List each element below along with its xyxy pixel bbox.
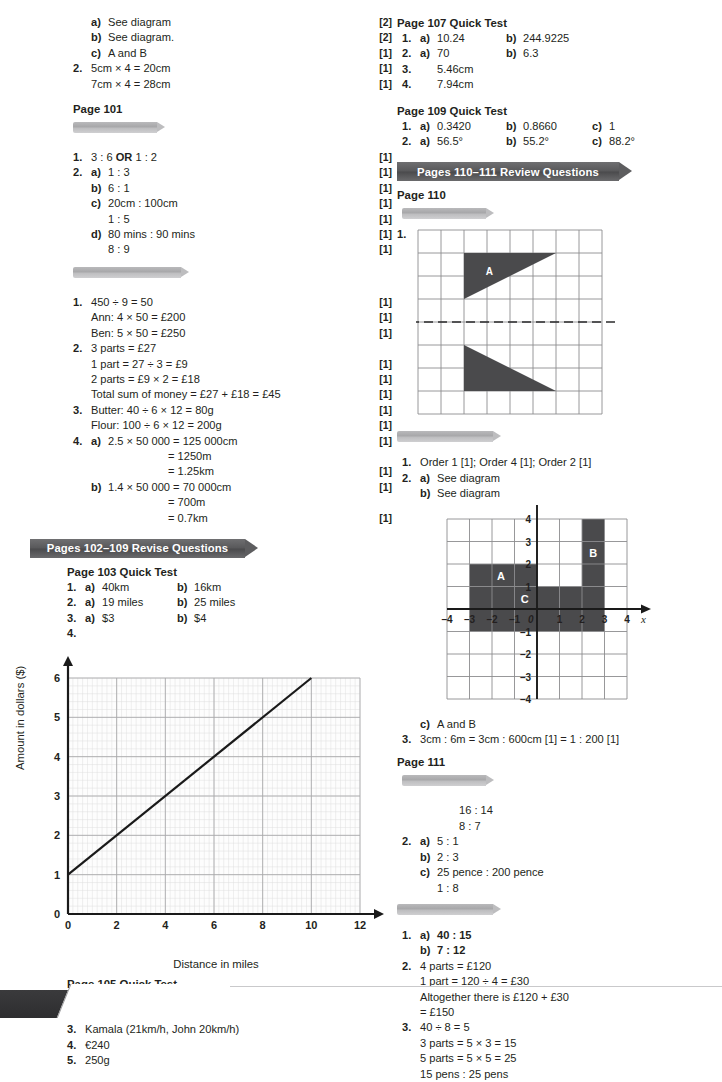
answer-row: 4.€240	[62, 1038, 392, 1053]
answer-text: 16 : 14	[459, 803, 722, 818]
answer-text: = 700m	[168, 495, 392, 510]
answer-text: 7 : 12	[437, 943, 722, 958]
answer-list-page111-a: 16 : 148 : 72.a)5 : 1b)2 : 3c)25 pence :…	[397, 803, 722, 895]
quick-test-row: 4.	[62, 626, 392, 641]
answer-text: 244.9225	[523, 31, 569, 46]
answer-text: 1 part = 120 ÷ 4 = £30	[420, 974, 722, 989]
answer-list-page101-b: 1.450 ÷ 9 = 50[1]Ann: 4 × 50 = £200[1]Be…	[68, 295, 392, 526]
chart-x-axis-label: Distance in miles	[0, 958, 392, 970]
answer-row: b)7 : 12	[397, 943, 722, 958]
answer-row: 2.a)See diagram	[397, 471, 722, 486]
answer-text: = 1250m	[168, 449, 392, 464]
redacted-topic-tag	[397, 431, 493, 442]
redacted-topic-tag	[73, 122, 157, 133]
answer-text: 88.2°	[609, 134, 635, 149]
answer-row: c)A and B[1]	[68, 46, 392, 61]
answer-text: 2.5 × 50 000 = 125 000cm	[108, 434, 392, 449]
answer-row: c)A and B	[397, 717, 722, 732]
answer-row: 1.450 ÷ 9 = 50[1]	[68, 295, 392, 310]
answer-list-page107: 1.a)10.24b)244.92252.a)70b)6.33.5.46cm4.…	[397, 31, 722, 93]
answer-text: 7.94cm	[437, 77, 473, 92]
svg-text:–3: –3	[520, 671, 532, 682]
answer-row: 2.a)1 : 3[1]	[68, 165, 392, 180]
distance-cost-chart: Amount in dollars ($) 0246810120123456 D…	[0, 642, 392, 972]
quick-test-row: 1.a)0.3420b)0.8660c)1	[397, 119, 722, 134]
answer-row: 5.250g	[62, 1053, 392, 1068]
answer-list-page101-a: 1.3 : 6 OR 1 : 2[1]2.a)1 : 3[1]b)6 : 1[1…	[68, 150, 392, 258]
svg-text:3: 3	[602, 614, 608, 625]
diagram-item-number: 1.	[397, 228, 406, 240]
svg-text:1: 1	[54, 868, 60, 880]
answer-text: 8 : 7	[459, 819, 722, 834]
answer-letter: b)	[420, 943, 437, 958]
quick-test-row: 2.a)19 milesb)25 miles	[62, 595, 392, 610]
review-questions-banner: Pages 110–111 Review Questions	[397, 162, 619, 181]
answer-text: 55.2°	[523, 134, 549, 149]
answer-text: 19 miles	[102, 595, 143, 610]
answer-number: 2.	[397, 471, 420, 486]
top-answer-block: a)See diagram[2]b)See diagram.[2]c)A and…	[0, 0, 392, 92]
quick-test-cell: c)1	[592, 119, 672, 134]
svg-text:–2: –2	[486, 614, 498, 625]
page-curl-artifact	[0, 984, 230, 1018]
answer-text: 16km	[194, 580, 221, 595]
svg-text:A: A	[486, 266, 493, 277]
svg-text:0: 0	[528, 614, 534, 625]
svg-text:0: 0	[54, 908, 60, 920]
answer-text: 3cm : 6m = 3cm : 600cm [1] = 1 : 200 [1]	[420, 732, 722, 747]
answer-row: 15 pens : 25 pens	[397, 1067, 722, 1082]
svg-text:4: 4	[624, 614, 630, 625]
banner-label: Pages 102–109 Revise Questions	[47, 542, 228, 554]
answer-text: See diagram	[437, 471, 722, 486]
answer-letter: a)	[85, 580, 102, 595]
answer-row: 1.3 : 6 OR 1 : 2[1]	[68, 150, 392, 165]
quick-test-cell: a)$3	[85, 611, 177, 626]
mark-allocation: [1]	[379, 372, 392, 387]
quick-test-cell: b)244.9225	[506, 31, 592, 46]
answer-row: 8 : 7	[397, 819, 722, 834]
answer-letter: b)	[177, 580, 194, 595]
answer-row: Total sum of money = £27 + £18 = £45[1]	[68, 387, 392, 402]
svg-text:x: x	[640, 613, 646, 625]
svg-text:–1: –1	[509, 614, 521, 625]
answer-row: = 0.7km[1]	[68, 511, 392, 526]
answer-number: 1.	[397, 928, 420, 943]
svg-text:6: 6	[211, 919, 217, 931]
quick-test-cell: a)56.5°	[420, 134, 506, 149]
answer-number: 2.	[68, 61, 91, 76]
answer-letter: a)	[420, 134, 437, 149]
answer-text: 40 : 15	[437, 928, 722, 943]
answer-row: 1.Order 1 [1]; Order 4 [1]; Order 2 [1]	[397, 455, 722, 470]
answer-text: 0.3420	[437, 119, 471, 134]
svg-text:10: 10	[305, 919, 317, 931]
svg-text:8: 8	[260, 919, 266, 931]
svg-text:A: A	[497, 570, 505, 582]
mark-allocation: [1]	[379, 196, 392, 211]
answer-list-page111-b: 1.a)40 : 15b)7 : 122.4 parts = £1201 par…	[397, 928, 722, 1082]
answer-row: c)25 pence : 200 pence	[397, 865, 722, 880]
quick-test-cell: b)55.2°	[506, 134, 592, 149]
answer-row: 2.5cm × 4 = 20cm[1]	[68, 61, 392, 76]
answer-letter: c)	[592, 119, 609, 134]
quick-test-cell: a)70	[420, 46, 506, 61]
answer-number: 5.	[62, 1053, 85, 1068]
answer-letter: a)	[91, 434, 108, 449]
answer-number: 1.	[62, 580, 85, 595]
answer-row: = 1250m	[68, 449, 392, 464]
answer-row: d)80 mins : 90 mins[1]	[68, 227, 392, 242]
answer-letter: a)	[420, 46, 437, 61]
answer-row: 1 part = 120 ÷ 4 = £30	[397, 974, 722, 989]
svg-text:3: 3	[525, 536, 531, 547]
answer-row: Flour: 100 ÷ 6 × 12 = 200g[1]	[68, 418, 392, 433]
mark-allocation: [1]	[379, 212, 392, 227]
answer-text: 1 : 8	[437, 881, 722, 896]
answer-text: 25 pence : 200 pence	[437, 865, 722, 880]
answer-number: 1.	[68, 295, 91, 310]
quick-test-cell: b)16km	[177, 580, 269, 595]
answer-text: 4 parts = £120	[420, 959, 722, 974]
answer-number: 1.	[68, 150, 91, 165]
answer-text: 0.8660	[523, 119, 557, 134]
answer-row: 16 : 14	[397, 803, 722, 818]
quick-test-cell: 5.46cm	[420, 62, 506, 77]
mark-allocation: [1]	[379, 46, 392, 61]
